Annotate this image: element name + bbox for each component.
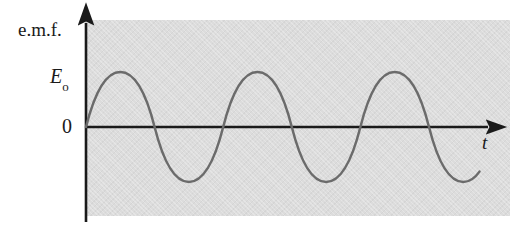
- amplitude-symbol: E: [50, 65, 62, 87]
- amplitude-label: Eo: [50, 66, 69, 90]
- amplitude-subscript: o: [62, 79, 69, 94]
- y-axis-title: e.m.f.: [18, 20, 62, 39]
- origin-label: 0: [62, 116, 72, 136]
- x-axis-title: t: [482, 133, 487, 152]
- graph-vector-layer: [0, 0, 518, 237]
- emf-time-graph-figure: e.m.f. Eo 0 t: [0, 0, 518, 237]
